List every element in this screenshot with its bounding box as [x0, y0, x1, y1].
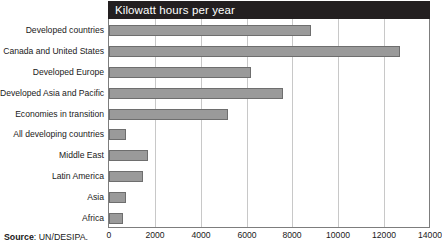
category-label: Developed Asia and Pacific	[0, 88, 104, 99]
chart-title: Kilowatt hours per year	[115, 4, 235, 16]
source-label: Source	[4, 232, 34, 242]
bar	[109, 213, 123, 224]
x-tick-label: 2000	[145, 230, 164, 241]
chart-figure: Kilowatt hours per year Developed countr…	[0, 0, 442, 249]
category-label: Canada and United States	[0, 46, 104, 57]
source-separator: :	[34, 232, 36, 242]
source-note: Source: UN/DESIPA.	[4, 232, 88, 243]
x-axis-tick-labels: 02000400060008000100001200014000	[108, 230, 430, 244]
bar-row	[109, 171, 143, 182]
bar-row	[109, 109, 228, 120]
category-label: Middle East	[0, 150, 104, 161]
x-tick-label: 6000	[237, 230, 256, 241]
bar-row	[109, 150, 148, 161]
source-value: UN/DESIPA.	[39, 232, 88, 242]
x-tick-label: 14000	[418, 230, 442, 241]
bar	[109, 88, 283, 99]
category-label: Latin America	[0, 171, 104, 182]
bar	[109, 171, 143, 182]
category-label: Developed Europe	[0, 67, 104, 78]
category-label: Asia	[0, 192, 104, 203]
bar	[109, 109, 228, 120]
chart-title-bar: Kilowatt hours per year	[108, 1, 430, 19]
bar-row	[109, 88, 283, 99]
bar-series	[109, 19, 429, 227]
bar	[109, 192, 126, 203]
bar-row	[109, 129, 126, 140]
x-tick-label: 12000	[372, 230, 396, 241]
x-tick-label: 10000	[326, 230, 350, 241]
x-tick-label: 4000	[191, 230, 210, 241]
bar-row	[109, 25, 311, 36]
category-axis-labels: Developed countriesCanada and United Sta…	[0, 19, 104, 228]
x-tick-label: 8000	[282, 230, 301, 241]
bar	[109, 150, 148, 161]
bar-row	[109, 46, 400, 57]
category-label: All developing countries	[0, 129, 104, 140]
bar	[109, 129, 126, 140]
plot-area	[108, 19, 430, 228]
bar-row	[109, 67, 251, 78]
category-label: Africa	[0, 213, 104, 224]
bar	[109, 46, 400, 57]
x-tick-label: 0	[107, 230, 112, 241]
category-label: Economies in transition	[0, 109, 104, 120]
bar-row	[109, 192, 126, 203]
bar-row	[109, 213, 123, 224]
bar	[109, 25, 311, 36]
bar	[109, 67, 251, 78]
category-label: Developed countries	[0, 25, 104, 36]
